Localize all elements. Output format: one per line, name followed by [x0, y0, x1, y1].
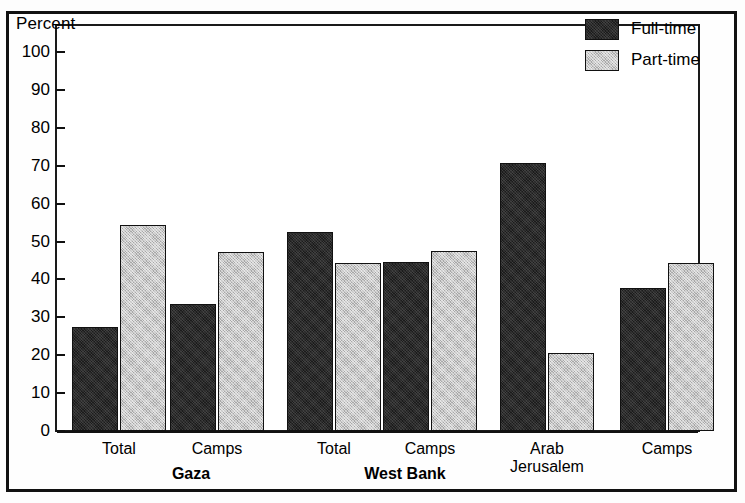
y-tick-label: 30 [8, 308, 50, 325]
y-tick-label: 60 [8, 195, 50, 212]
bar-full-time [620, 288, 666, 431]
y-tick-mark [56, 316, 65, 318]
x-group-label: West Bank [325, 465, 485, 483]
bar-full-time [287, 232, 333, 431]
x-category-label: Camps [607, 440, 727, 458]
x-category-label: Camps [370, 440, 490, 458]
bar-part-time [548, 353, 594, 431]
bar-part-time [120, 225, 166, 431]
chart-figure: Percent 1009080706050403020100 TotalCamp… [0, 0, 745, 503]
bar-full-time [170, 304, 216, 431]
y-tick-label: 10 [8, 384, 50, 401]
bar-part-time [668, 263, 714, 431]
y-tick-label: 80 [8, 119, 50, 136]
y-tick-mark [56, 89, 65, 91]
y-tick-label: 20 [8, 346, 50, 363]
y-tick-mark [56, 51, 65, 53]
y-tick-label: 0 [8, 422, 50, 439]
legend-item[interactable]: Part-time [585, 47, 735, 73]
x-category-label: Camps [157, 440, 277, 458]
y-tick-mark [56, 127, 65, 129]
y-tick-mark [56, 278, 65, 280]
bar-part-time [218, 252, 264, 431]
chart-legend: Full-timePart-time [585, 16, 735, 78]
bar-part-time [431, 251, 477, 431]
legend-swatch-part-time [585, 50, 619, 71]
bar-full-time [500, 163, 546, 431]
x-axis-line [57, 431, 698, 433]
y-tick-label: 70 [8, 157, 50, 174]
y-tick-label: 90 [8, 81, 50, 98]
y-tick-mark [56, 203, 65, 205]
legend-label: Part-time [631, 50, 700, 70]
x-category-label: ArabJerusalem [487, 440, 607, 476]
x-category-label-line2: Jerusalem [487, 458, 607, 476]
y-tick-mark [56, 241, 65, 243]
y-tick-mark [56, 392, 65, 394]
bar-part-time [335, 263, 381, 431]
x-group-label: Gaza [111, 465, 271, 483]
legend-swatch-full-time [585, 19, 619, 40]
y-tick-mark [56, 354, 65, 356]
y-axis-title: Percent [16, 14, 75, 34]
bar-full-time [383, 262, 429, 431]
y-tick-label: 40 [8, 270, 50, 287]
y-tick-label: 50 [8, 233, 50, 250]
y-tick-label: 100 [8, 43, 50, 60]
legend-item[interactable]: Full-time [585, 16, 735, 42]
bar-full-time [72, 327, 118, 431]
legend-label: Full-time [631, 19, 696, 39]
y-tick-mark [56, 165, 65, 167]
